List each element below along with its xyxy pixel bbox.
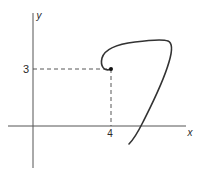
x-tick-label: 4 (107, 128, 113, 139)
curve-diagram: 3 4 x y (0, 0, 201, 174)
marked-point (109, 67, 113, 71)
y-tick-label: 3 (23, 63, 29, 75)
x-axis-label: x (187, 127, 194, 138)
y-axis-label: y (36, 10, 43, 21)
